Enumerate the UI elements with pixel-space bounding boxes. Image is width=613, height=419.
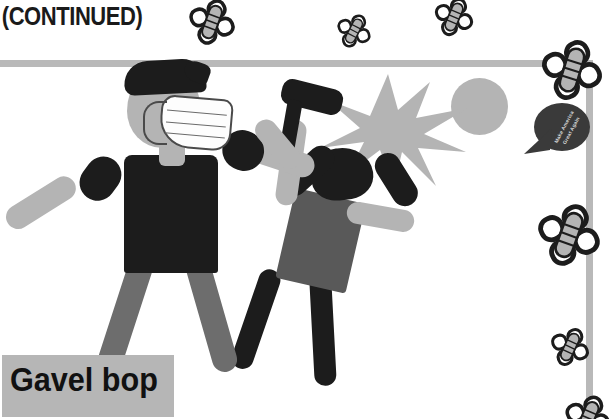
masked-arm-lower-left <box>1 172 80 234</box>
panel-top-border <box>0 60 590 67</box>
mask-pleat-3 <box>165 132 225 138</box>
comic-panel: (CONTINUED) <box>0 0 613 419</box>
germ-icon <box>432 0 476 39</box>
germ-icon <box>185 0 238 49</box>
germ-icon <box>537 35 607 105</box>
mask-pleat-1 <box>167 109 227 115</box>
struck-leg-left <box>229 266 284 371</box>
germ-icon <box>335 12 373 50</box>
panel-title: Gavel bop <box>10 362 158 396</box>
masked-sleeve-left <box>72 149 128 207</box>
germ-icon <box>533 199 605 271</box>
mask-strap <box>143 101 167 145</box>
mask-pleat-2 <box>166 121 226 127</box>
masked-torso <box>124 155 218 273</box>
germ-icon <box>562 392 613 419</box>
continued-caption: (CONTINUED) <box>0 0 142 29</box>
